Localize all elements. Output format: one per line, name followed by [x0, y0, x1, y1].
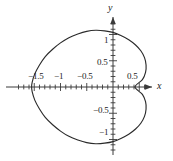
y-tick-label--1: −1	[99, 128, 108, 137]
polar-curve-figure: −1.5 −1 −0.5 0.5 1 0.5 −0.5 −1 x y	[0, 0, 173, 161]
x-tick-label-0-5: 0.5	[127, 72, 138, 81]
axes-group	[6, 17, 152, 155]
y-tick-label-1: 1	[104, 36, 108, 45]
x-axis-label: x	[157, 81, 161, 91]
x-tick-label--0-5: −0.5	[77, 72, 93, 81]
y-tick-label--0-5: −0.5	[93, 106, 109, 115]
y-axis-label: y	[108, 3, 112, 13]
y-axis-arrow-icon	[110, 17, 115, 24]
x-tick-label--1: −1	[54, 72, 63, 81]
x-axis-arrow-icon	[145, 84, 152, 89]
x-tick-label--1-5: −1.5	[28, 72, 44, 81]
y-tick-label-0-5: 0.5	[97, 58, 108, 67]
